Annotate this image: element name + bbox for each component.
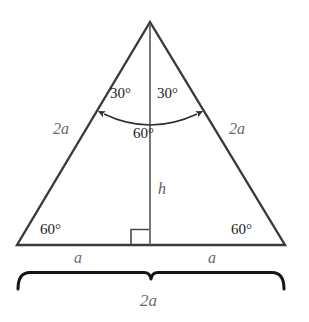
apex-right-angle-label: 30° — [157, 86, 178, 101]
base-left-angle-label: 60° — [40, 222, 61, 237]
base-right-angle-label: 60° — [231, 222, 252, 237]
apex-total-angle-label: 60° — [133, 126, 154, 141]
base-brace — [18, 273, 284, 290]
apex-left-angle-label: 30° — [110, 86, 131, 101]
diagram-canvas — [0, 0, 309, 322]
base-total-length-label: 2a — [140, 292, 157, 309]
geometry-diagram: 30° 30° 60° 2a 2a h 60° 60° a a 2a — [0, 0, 309, 322]
half-base-right-label: a — [208, 250, 216, 266]
right-angle-marker — [131, 230, 149, 245]
right-side-length-label: 2a — [229, 121, 245, 137]
left-side-length-label: 2a — [53, 121, 69, 137]
half-base-left-label: a — [74, 250, 82, 266]
altitude-length-label: h — [158, 181, 166, 197]
